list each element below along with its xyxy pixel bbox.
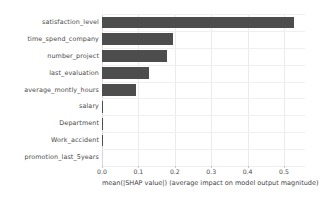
y-axis-label-last-evaluation: last_evaluation: [0, 65, 99, 82]
bar-series: [102, 14, 305, 166]
y-axis-label-average-montly-hours: average_montly_hours: [0, 82, 99, 99]
x-axis-tick-label: 0.3: [206, 168, 216, 175]
x-axis-tick-labels: 0.00.10.20.30.40.5: [102, 168, 305, 178]
bar-row: [102, 65, 305, 82]
bar: [102, 84, 136, 96]
y-axis-label-department: Department: [0, 115, 99, 132]
x-axis-tick-label: 0.2: [170, 168, 180, 175]
bar: [102, 33, 173, 45]
x-axis-tick-label: 0.5: [279, 168, 289, 175]
x-axis-title: mean(|SHAP value|) (average impact on mo…: [102, 179, 305, 187]
gridline-horizontal: [102, 166, 305, 167]
bar: [102, 67, 149, 79]
shap-feature-importance-chart: satisfaction_leveltime_spend_companynumb…: [0, 0, 330, 199]
bar: [102, 118, 103, 130]
bar: [102, 17, 294, 29]
y-axis-tick-labels: satisfaction_leveltime_spend_companynumb…: [0, 14, 99, 166]
x-axis-tick-label: 0.4: [243, 168, 253, 175]
bar-row: [102, 14, 305, 31]
bar-row: [102, 149, 305, 166]
y-axis-label-satisfaction-level: satisfaction_level: [0, 14, 99, 31]
y-axis-label-work-accident: Work_accident: [0, 132, 99, 149]
y-axis-label-salary: salary: [0, 98, 99, 115]
x-axis-tick-label: 0.1: [133, 168, 143, 175]
bar-row: [102, 115, 305, 132]
bar: [102, 101, 103, 113]
bar-row: [102, 48, 305, 65]
bar: [102, 50, 167, 62]
x-axis-tick-label: 0.0: [97, 168, 107, 175]
plot-area: [102, 14, 305, 166]
bar-row: [102, 132, 305, 149]
y-axis-label-time-spend-company: time_spend_company: [0, 31, 99, 48]
y-axis-label-number-project: number_project: [0, 48, 99, 65]
bar-row: [102, 31, 305, 48]
bar: [102, 135, 103, 147]
y-axis-label-promotion-last-5years: promotion_last_5years: [0, 149, 99, 166]
bar-row: [102, 82, 305, 99]
bar-row: [102, 98, 305, 115]
